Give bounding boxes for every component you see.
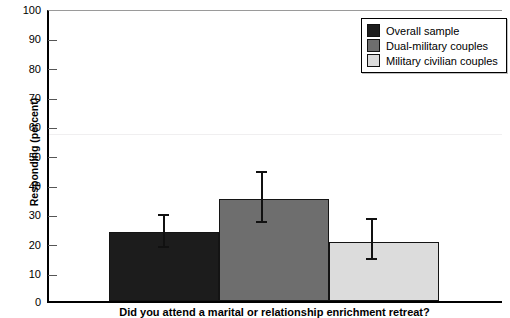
error-cap-upper-dual-military-couples (256, 171, 267, 173)
error-cap-upper-military-civilian-couples (366, 218, 377, 220)
legend-label: Overall sample (386, 25, 459, 37)
y-tick-label: 0 (11, 297, 41, 308)
legend-swatch-icon (367, 39, 380, 52)
y-tick-label: 60 (11, 122, 41, 133)
y-tick-label: 20 (11, 240, 41, 251)
legend-label: Dual-military couples (386, 40, 488, 52)
legend-swatch-icon (367, 24, 380, 37)
error-bar-dual-military-couples (261, 173, 263, 223)
y-tick-label: 100 (11, 5, 41, 16)
legend-item-overall-sample: Overall sample (367, 23, 498, 38)
y-tick-label: 30 (11, 210, 41, 221)
error-bar-overall-sample (163, 216, 165, 248)
y-tick-label: 10 (11, 269, 41, 280)
y-tick-label: 80 (11, 64, 41, 75)
error-cap-upper-overall-sample (158, 214, 169, 216)
legend-label: Military civilian couples (386, 55, 498, 67)
legend-item-military-civilian-couples: Military civilian couples (367, 53, 498, 68)
legend-swatch-icon (367, 54, 380, 67)
legend-item-dual-military-couples: Dual-military couples (367, 38, 498, 53)
bar-military-civilian-couples (329, 242, 439, 301)
legend: Overall sample Dual-military couples Mil… (361, 18, 507, 73)
y-tick-label: 50 (11, 152, 41, 163)
y-tick-label: 90 (11, 34, 41, 45)
y-tick-label: 40 (11, 181, 41, 192)
error-cap-lower-dual-military-couples (256, 221, 267, 223)
error-cap-lower-military-civilian-couples (366, 258, 377, 260)
bar-dual-military-couples (219, 199, 329, 301)
y-axis-tick-labels: 100 90 80 70 60 50 40 30 20 10 0 (0, 0, 41, 315)
y-tick-label: 70 (11, 93, 41, 104)
error-cap-lower-overall-sample (158, 246, 169, 248)
error-bar-military-civilian-couples (371, 220, 373, 260)
x-axis-title: Did you attend a marital or relationship… (47, 306, 502, 318)
